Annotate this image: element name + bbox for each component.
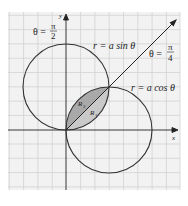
sine-curve-label: r = a sin θ (93, 40, 135, 51)
cosine-curve-label: r = a cos θ (131, 82, 175, 93)
polar-diagram: y x θ = π 2 r = a sin θ θ = π 4 r = a co… (0, 0, 188, 206)
svg-text:θ =: θ = (149, 48, 162, 59)
svg-text:π: π (51, 21, 56, 31)
svg-text:4: 4 (168, 53, 173, 63)
svg-text:2: 2 (51, 31, 56, 41)
svg-text:θ =: θ = (33, 26, 46, 37)
svg-text:π: π (168, 42, 173, 52)
